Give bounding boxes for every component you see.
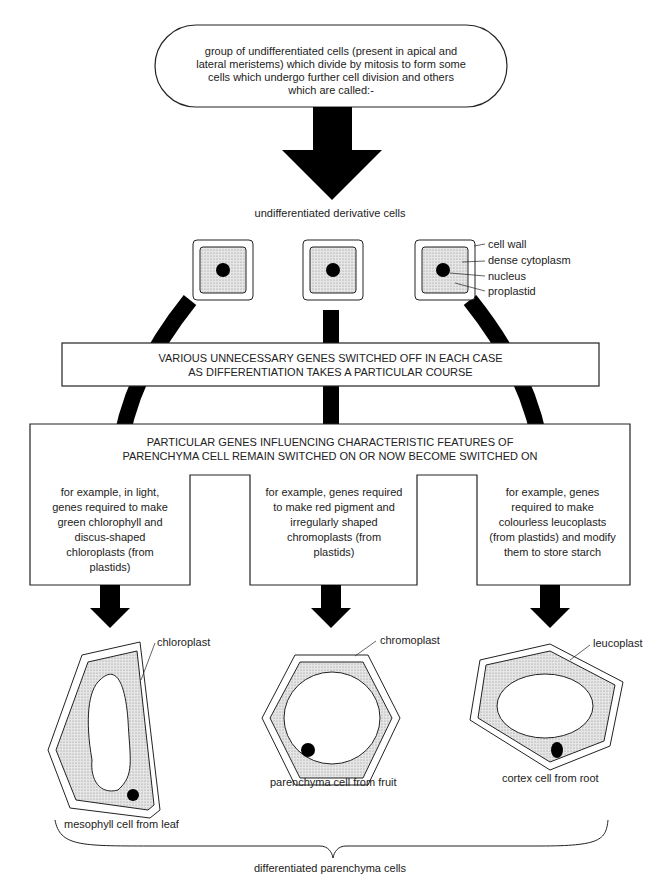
big-down-arrow-icon: [282, 107, 382, 200]
label-proplastid: proplastid: [488, 285, 536, 298]
undifferentiated-cell: [415, 240, 485, 300]
genes-off-line1: VARIOUS UNNECESSARY GENES SWITCHED OFF I…: [62, 351, 599, 365]
genes-on-line2: PARENCHYMA CELL REMAIN SWITCHED ON OR NO…: [30, 449, 630, 463]
caption-fruit: parenchyma cell from fruit: [270, 776, 397, 789]
label-chromoplast: chromoplast: [380, 634, 440, 647]
genes-on-box: PARTICULAR GENES INFLUENCING CHARACTERIS…: [30, 435, 630, 463]
genes-off-line2: AS DIFFERENTIATION TAKES A PARTICULAR CO…: [62, 365, 599, 379]
label-chloroplast: chloroplast: [157, 636, 210, 649]
top-box-text: group of undifferentiated cells (present…: [195, 45, 467, 97]
genes-on-line1: PARTICULAR GENES INFLUENCING CHARACTERIS…: [30, 435, 630, 449]
label-leucoplast: leucoplast: [593, 637, 643, 650]
bottom-label: differentiated parenchyma cells: [230, 862, 430, 875]
derivative-label: undifferentiated derivative cells: [220, 207, 440, 220]
mesophyll-cell: [48, 642, 160, 818]
example-root: for example, genes required to make colo…: [485, 485, 620, 560]
caption-mesophyll: mesophyll cell from leaf: [64, 818, 179, 831]
example-fruit: for example, genes required to make red …: [265, 485, 403, 560]
example-leaf: for example, in light, genes required to…: [45, 485, 175, 575]
label-dense-cytoplasm: dense cytoplasm: [488, 254, 571, 267]
root-cell: [470, 644, 623, 770]
genes-off-box: VARIOUS UNNECESSARY GENES SWITCHED OFF I…: [62, 351, 599, 379]
caption-cortex: cortex cell from root: [502, 772, 599, 785]
label-cell-wall: cell wall: [488, 238, 527, 251]
undifferentiated-cell: [303, 240, 363, 300]
fruit-cell: [262, 655, 400, 785]
undifferentiated-cell: [193, 240, 253, 300]
label-nucleus: nucleus: [488, 270, 526, 283]
